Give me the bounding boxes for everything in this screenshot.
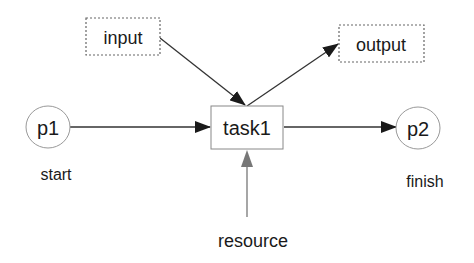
edge-task1-to-output	[247, 44, 338, 106]
node-task1[interactable]: task1	[211, 106, 283, 149]
output-label: output	[356, 35, 406, 55]
node-p2[interactable]: p2 finish	[396, 107, 444, 190]
task1-label: task1	[223, 117, 271, 139]
p1-caption-start: start	[40, 166, 72, 183]
node-output[interactable]: output	[339, 25, 424, 62]
p1-label: p1	[37, 117, 59, 139]
p2-label: p2	[407, 118, 429, 140]
edge-input-to-task1	[160, 38, 245, 105]
node-input[interactable]: input	[86, 18, 160, 55]
resource-arrowhead-icon	[241, 150, 253, 167]
p2-caption-finish: finish	[406, 173, 443, 190]
input-label: input	[103, 28, 142, 48]
node-p1[interactable]: p1 start	[26, 106, 72, 183]
node-resource[interactable]: resource	[218, 231, 288, 251]
petri-net-diagram: input output task1 p1 start p2 finish re…	[0, 0, 474, 263]
resource-label[interactable]: resource	[218, 231, 288, 251]
